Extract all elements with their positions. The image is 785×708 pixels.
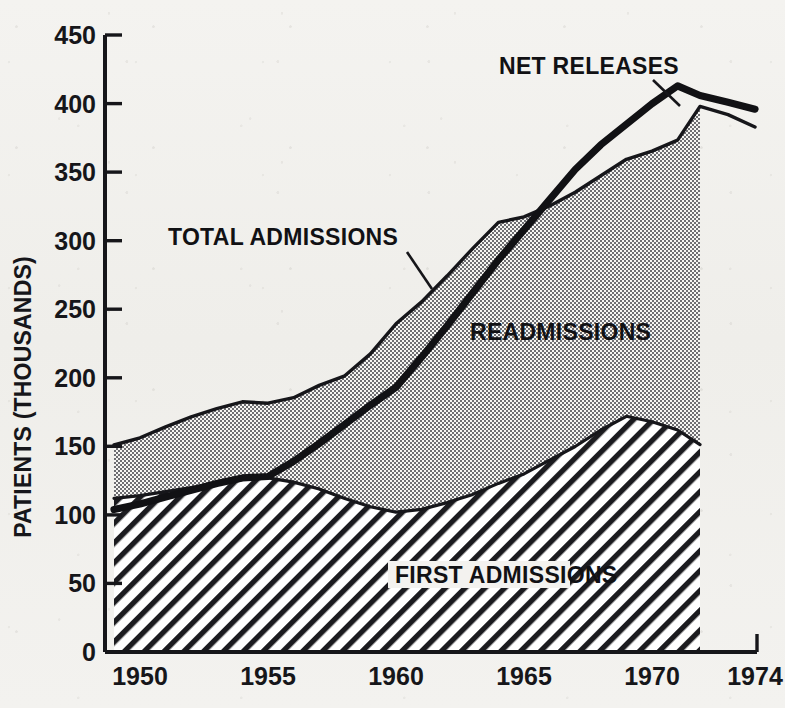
annotation-first-admissions: FIRST ADMISSIONS	[395, 562, 617, 588]
y-tick-label-450: 450	[54, 21, 96, 49]
x-tick-label-1960: 1960	[368, 662, 424, 690]
leader-line-total-admissions	[407, 252, 432, 289]
y-tick-label-300: 300	[54, 227, 96, 255]
x-tick-label-1974: 1974	[727, 662, 783, 690]
chart-figure: 450 400 350 300 250 200 150 100 50 0 195…	[0, 0, 785, 708]
patients-area-chart: 450 400 350 300 250 200 150 100 50 0 195…	[0, 0, 785, 708]
annotation-readmissions: READMISSIONS	[470, 319, 651, 345]
x-tick-label-1950: 1950	[112, 662, 168, 690]
y-tick-label-400: 400	[54, 90, 96, 118]
x-tick-label-1970: 1970	[624, 662, 680, 690]
y-tick-label-50: 50	[68, 569, 96, 597]
annotation-net-releases: NET RELEASES	[499, 53, 679, 79]
y-tick-label-150: 150	[54, 432, 96, 460]
y-tick-label-0: 0	[82, 638, 96, 666]
y-tick-label-250: 250	[54, 295, 96, 323]
y-axis-title: PATIENTS (THOUSANDS)	[10, 256, 36, 538]
annotation-total-admissions: TOTAL ADMISSIONS	[168, 224, 398, 250]
y-tick-label-200: 200	[54, 364, 96, 392]
y-tick-label-350: 350	[54, 158, 96, 186]
x-tick-label-1965: 1965	[496, 662, 552, 690]
y-tick-label-100: 100	[54, 501, 96, 529]
x-tick-label-1955: 1955	[240, 662, 296, 690]
